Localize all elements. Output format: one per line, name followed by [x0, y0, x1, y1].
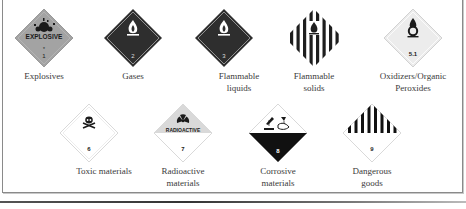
flame-icon: 2 — [103, 8, 163, 68]
flame-over-circle-icon: 5.1 — [383, 8, 443, 68]
radiation-icon: RADIOACTIVE 7 — [153, 103, 213, 163]
corrosive-icon: 8 — [248, 103, 308, 163]
sign-label: Explosives — [0, 71, 89, 83]
sign-corrosive: 8 Corrosive materials — [233, 103, 323, 189]
skull-icon: 6 — [59, 103, 119, 163]
sign-flammable-solids: Flammable solids — [269, 8, 359, 94]
sign-radioactive: RADIOACTIVE 7 Radioactive materials — [138, 103, 228, 189]
divider — [0, 201, 466, 203]
sign-label: Oxidizers/Organic Peroxides — [363, 71, 463, 94]
sign-gases: 2 Gases — [88, 8, 178, 83]
svg-text:EXPLOSIVE: EXPLOSIVE — [26, 33, 64, 40]
svg-text:*: * — [43, 46, 45, 52]
explosive-icon: EXPLOSIVE * 1 — [14, 8, 74, 68]
svg-text:RADIOACTIVE: RADIOACTIVE — [166, 127, 201, 133]
sign-label: Flammable solids — [284, 71, 344, 94]
svg-text:5.1: 5.1 — [409, 51, 418, 57]
sign-toxic: 6 Toxic materials — [44, 103, 134, 178]
sign-label: Toxic materials — [74, 166, 134, 178]
sign-dangerous-goods: 9 Dangerous goods — [327, 103, 417, 189]
sign-label: Flammable liquids — [209, 71, 269, 94]
flame-icon: 3 — [194, 8, 254, 68]
sign-label: Dangerous goods — [342, 166, 402, 189]
sign-label: Corrosive materials — [248, 166, 308, 189]
sign-label: Radioactive materials — [148, 166, 218, 189]
striped-triangle-icon: 9 — [342, 103, 402, 163]
sign-oxidizers: 5.1 Oxidizers/Organic Peroxides — [368, 8, 458, 94]
sign-flammable-liquids: 3 Flammable liquids — [179, 8, 269, 94]
sign-explosives: EXPLOSIVE * 1 Explosives — [0, 8, 89, 83]
striped-flame-icon — [284, 8, 344, 68]
sign-label: Gases — [88, 71, 178, 83]
